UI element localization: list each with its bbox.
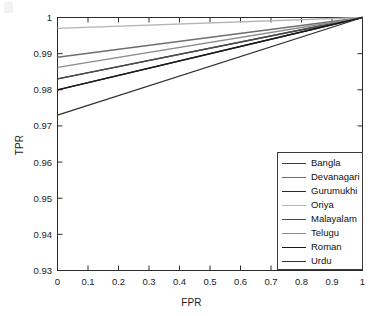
x-tick-label: 0.6: [226, 276, 256, 287]
legend-item-label: Malayalam: [311, 212, 357, 226]
legend-item-label: Gurumukhi: [311, 184, 357, 198]
legend-item-oriya[interactable]: Oriya: [278, 198, 362, 212]
legend-item-label: Telugu: [311, 226, 339, 240]
y-axis-label: TPR: [14, 115, 25, 175]
legend-item-devanagari[interactable]: Devanagari: [278, 170, 362, 184]
x-tick-label: 0.3: [134, 276, 164, 287]
legend-swatch-icon: [282, 219, 306, 220]
legend-swatch-icon: [282, 233, 306, 234]
legend-item-label: Bangla: [311, 156, 341, 170]
legend-swatch-icon: [282, 261, 306, 262]
legend-item-urdu[interactable]: Urdu: [278, 254, 362, 268]
legend-item-label: Devanagari: [311, 170, 360, 184]
legend-swatch-icon: [282, 247, 306, 248]
x-tick-label: 0.4: [165, 276, 195, 287]
legend-item-gurumukhi[interactable]: Gurumukhi: [278, 184, 362, 198]
y-tick-label: 0.98: [18, 84, 52, 95]
legend-swatch-icon: [282, 205, 306, 206]
chart-legend[interactable]: BanglaDevanagariGurumukhiOriyaMalayalamT…: [277, 152, 363, 270]
x-tick-label: 0.9: [317, 276, 347, 287]
legend-item-label: Roman: [311, 240, 342, 254]
x-tick-label: 0.2: [104, 276, 134, 287]
legend-swatch-icon: [282, 163, 306, 164]
legend-item-roman[interactable]: Roman: [278, 240, 362, 254]
x-tick-label: 0.7: [256, 276, 286, 287]
legend-item-label: Oriya: [311, 198, 334, 212]
x-tick-label: 1: [348, 276, 378, 287]
legend-swatch-icon: [282, 191, 306, 192]
y-tick-label: 0.99: [18, 48, 52, 59]
legend-item-telugu[interactable]: Telugu: [278, 226, 362, 240]
legend-item-label: Urdu: [311, 254, 332, 268]
x-tick-label: 0.8: [287, 276, 317, 287]
x-tick-label: 0: [43, 276, 73, 287]
roc-chart-figure: 00.10.20.30.40.50.60.70.80.91 0.930.940.…: [0, 0, 383, 316]
x-tick-label: 0.5: [195, 276, 225, 287]
legend-item-bangla[interactable]: Bangla: [278, 156, 362, 170]
y-tick-label: 1: [18, 12, 52, 23]
y-tick-label: 0.95: [18, 193, 52, 204]
y-tick-label: 0.94: [18, 229, 52, 240]
legend-item-malayalam[interactable]: Malayalam: [278, 212, 362, 226]
y-tick-label: 0.93: [18, 265, 52, 276]
x-axis-label: FPR: [0, 297, 383, 308]
x-tick-label: 0.1: [73, 276, 103, 287]
legend-swatch-icon: [282, 177, 306, 178]
